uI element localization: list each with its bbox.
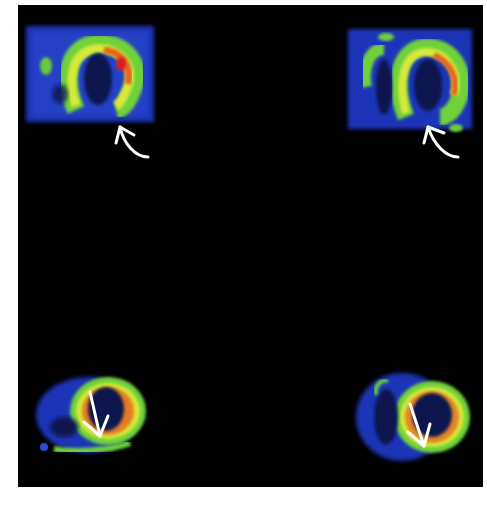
down-arrow-icon (400, 400, 440, 455)
down-arrow-icon (78, 388, 118, 443)
curved-arrow-icon (108, 113, 158, 163)
image-panel (18, 5, 483, 487)
curved-arrow-icon (416, 113, 466, 163)
scan-top-left (24, 24, 156, 126)
